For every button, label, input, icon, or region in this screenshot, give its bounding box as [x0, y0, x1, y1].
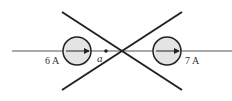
right-current-element [153, 37, 181, 65]
left-current-element [63, 37, 91, 65]
point-a-dot [104, 49, 108, 53]
left-current-label: 6 A [45, 55, 60, 66]
right-current-label: 7 A [185, 55, 200, 66]
diagram-canvas: 6 A a 7 A [0, 0, 232, 101]
point-a-label: a [97, 52, 103, 64]
